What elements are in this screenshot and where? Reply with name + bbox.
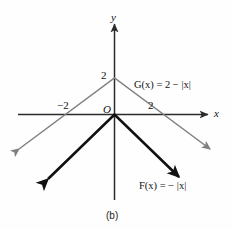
x-tick-label-negative-2: −2: [57, 100, 69, 111]
y-axis-label: y: [111, 12, 116, 23]
f-function-annotation: F(x) = − |x|: [139, 181, 186, 192]
y-tick-label-2: 2: [101, 70, 107, 81]
graph-canvas: [0, 0, 233, 229]
g-function-annotation: G(x) = 2 − |x|: [134, 80, 191, 91]
curve-f-of-x: [48, 115, 179, 180]
figure-caption: (b): [106, 211, 118, 221]
x-axis-label: x: [214, 108, 219, 119]
origin-label: O: [103, 104, 111, 115]
graph-figure: y x 2 −2 2 O G(x) = 2 − |x| F(x) = − |x|…: [0, 0, 233, 229]
x-tick-label-2: 2: [148, 100, 154, 111]
